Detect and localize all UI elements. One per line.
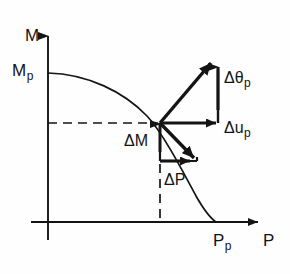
delta-p-label: ΔP [164, 172, 185, 188]
plastic-flow-vector-group [160, 63, 218, 123]
delta-u-p-label: Δup [224, 120, 251, 139]
mp-intercept-subscript: p [26, 69, 33, 83]
delta-u-p-subscript: p [244, 126, 251, 140]
pp-intercept-base: P [213, 231, 224, 250]
mp-intercept-label: Mp [12, 62, 33, 82]
mp-intercept-base: M [12, 61, 26, 80]
yield-interaction-figure: M Mp P Pp Δθp Δup ΔM ΔP [0, 0, 290, 274]
delta-u-p-base: Δu [224, 119, 244, 136]
pp-intercept-subscript: p [224, 239, 231, 253]
m-axis-label: M [25, 27, 39, 44]
pp-intercept-label: Pp [213, 232, 232, 252]
delta-theta-p-label: Δθp [224, 70, 251, 89]
delta-m-label: ΔM [124, 133, 148, 149]
delta-theta-p-subscript: p [244, 76, 251, 90]
plastic-flow-resultant-vector [160, 63, 211, 123]
p-axis-label: P [263, 232, 274, 249]
delta-theta-p-base: Δθ [224, 69, 244, 86]
